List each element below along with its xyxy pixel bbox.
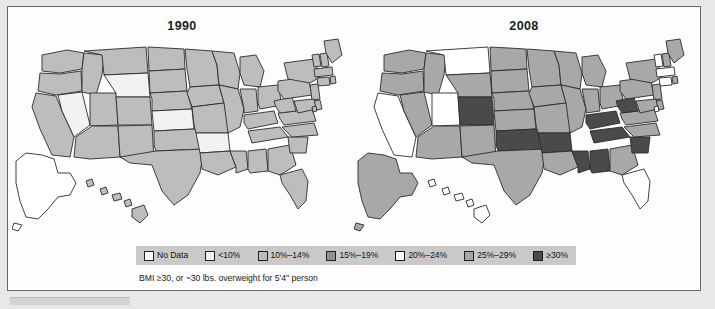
- state-fl: [280, 169, 308, 209]
- legend-swatch: [533, 251, 543, 261]
- legend-item: ≥30%: [533, 251, 568, 261]
- state-hi: [86, 179, 94, 187]
- legend-swatch: [326, 251, 336, 261]
- state-ar: [538, 133, 572, 153]
- state-ut: [432, 93, 460, 126]
- state-tn: [248, 127, 288, 143]
- legend-label: No Data: [157, 251, 188, 260]
- state-ut: [90, 93, 118, 126]
- state-ks: [152, 109, 194, 131]
- state-ct: [317, 77, 330, 86]
- state-ct: [659, 77, 672, 86]
- state-id: [424, 53, 446, 95]
- state-sd: [491, 69, 529, 93]
- state-ri: [330, 76, 336, 84]
- state-nj: [652, 84, 662, 100]
- state-al: [248, 149, 268, 173]
- state-nj: [310, 84, 320, 100]
- legend-item: 25%–29%: [464, 251, 516, 261]
- legend-item: No Data: [144, 251, 188, 261]
- state-ne: [150, 91, 192, 111]
- legend-label: 10%–14%: [271, 251, 310, 260]
- legend-swatch: [395, 251, 405, 261]
- legend-label: <10%: [218, 251, 240, 260]
- state-hi-island-3: [466, 199, 474, 207]
- legend-label: 15%–19%: [339, 251, 378, 260]
- legend-label: 25%–29%: [477, 251, 516, 260]
- bottom-rule: [10, 297, 130, 305]
- us-map-1990: [12, 33, 352, 239]
- state-vt: [312, 54, 321, 67]
- legend-label: ≥30%: [546, 251, 568, 260]
- state-tx: [120, 149, 204, 205]
- legend: No Data<10%10%–14%15%–19%20%–24%25%–29%≥…: [136, 246, 576, 265]
- legend-item: 15%–19%: [326, 251, 378, 261]
- us-map-2008: [354, 33, 694, 239]
- state-sc: [630, 137, 650, 153]
- state-ri: [672, 76, 678, 84]
- panel-title-2008: 2008: [354, 19, 694, 33]
- state-ma: [656, 67, 675, 77]
- state-hi-island-1: [442, 187, 450, 195]
- state-hi: [428, 179, 436, 187]
- state-hi-island-2: [112, 193, 122, 201]
- state-ks: [494, 109, 536, 131]
- legend-item: <10%: [205, 251, 240, 261]
- state-hi-island-3: [124, 199, 132, 207]
- legend-label: 20%–24%: [408, 251, 447, 260]
- state-ak: [358, 153, 418, 219]
- state-ne: [492, 91, 534, 111]
- state-or: [380, 71, 424, 95]
- state-dc: [654, 106, 659, 112]
- state-ar: [196, 133, 230, 153]
- state-ak: [16, 153, 76, 219]
- state-vt: [654, 54, 663, 67]
- state-co: [116, 97, 152, 125]
- state-sd: [149, 69, 187, 93]
- panel-title-1990: 1990: [12, 19, 352, 33]
- state-fl: [622, 169, 650, 209]
- state-la: [200, 151, 236, 175]
- legend-swatch: [144, 251, 154, 261]
- state-tn: [590, 127, 630, 143]
- legend-swatch: [205, 251, 215, 261]
- state-nc: [282, 123, 318, 137]
- legend-swatch: [464, 251, 474, 261]
- state-or: [38, 71, 82, 95]
- map-panel-1990: 1990: [12, 11, 352, 241]
- state-dc: [312, 106, 317, 112]
- state-nc: [624, 123, 660, 137]
- state-nd: [490, 47, 527, 71]
- figure-caption: BMI ≥30, or ~30 lbs. overweight for 5'4"…: [139, 273, 318, 283]
- state-tx: [462, 149, 546, 205]
- state-al: [590, 149, 610, 173]
- state-mi: [240, 55, 264, 87]
- state-wa: [42, 50, 84, 73]
- state-hi-island-2: [454, 193, 464, 201]
- state-ky: [586, 111, 620, 129]
- legend-item: 20%–24%: [395, 251, 447, 261]
- state-hi-island-4: [474, 205, 490, 223]
- state-co: [458, 97, 494, 125]
- state-hi-island-1: [100, 187, 108, 195]
- legend-item: 10%–14%: [258, 251, 310, 261]
- state-nd: [148, 47, 185, 71]
- state-mi: [582, 55, 606, 87]
- state-wa: [384, 50, 426, 73]
- state-ak-aleutians: [12, 223, 22, 231]
- state-ma: [314, 67, 333, 77]
- state-id: [82, 53, 104, 95]
- legend-swatch: [258, 251, 268, 261]
- state-hi-island-4: [132, 205, 148, 223]
- state-ky: [244, 111, 278, 129]
- figure-frame: 1990 2008 No Data<10%10%–14%15%–19%20%–2…: [7, 6, 701, 291]
- state-sc: [288, 137, 308, 153]
- map-panel-2008: 2008: [354, 11, 694, 241]
- state-ak-aleutians: [354, 223, 364, 231]
- state-la: [542, 151, 578, 175]
